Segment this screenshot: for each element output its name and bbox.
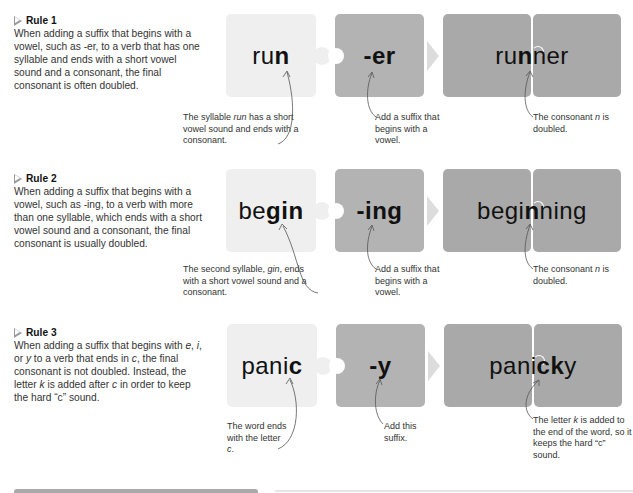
pointer-arrow-icon xyxy=(0,0,633,493)
bottom-panel-edge-right xyxy=(275,490,633,492)
bottom-panel-edge-left xyxy=(14,489,258,493)
